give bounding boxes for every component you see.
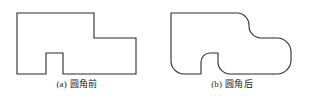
- figure-panel: (a)圆角前 (b)圆角后: [0, 0, 309, 101]
- profile-after-svg: [155, 0, 309, 80]
- drawing-area-after: [155, 0, 309, 80]
- caption-after-label: (b): [211, 79, 222, 89]
- drawing-area-before: [0, 0, 154, 80]
- profile-after-path: [171, 13, 291, 74]
- caption-after-text: 圆角后: [225, 79, 253, 89]
- figure-after-fillet: (b)圆角后: [155, 0, 309, 101]
- caption-before-text: 圆角前: [70, 79, 98, 89]
- profile-before-svg: [0, 0, 154, 80]
- profile-before-path: [17, 13, 136, 74]
- caption-after: (b)圆角后: [155, 78, 309, 91]
- figure-before-fillet: (a)圆角前: [0, 0, 154, 101]
- caption-before-label: (a): [56, 79, 67, 89]
- caption-before: (a)圆角前: [0, 78, 154, 91]
